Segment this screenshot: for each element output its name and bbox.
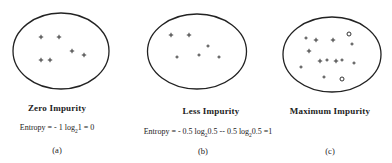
marker-dot bbox=[350, 42, 353, 45]
formula-b: Entropy = - 0.5 log20.5 -- 0.5 log20.5 =… bbox=[144, 127, 273, 138]
marker-dot bbox=[325, 58, 328, 61]
title-zero-impurity: Zero Impurity bbox=[28, 103, 86, 113]
marker-plus bbox=[39, 35, 43, 39]
marker-dot bbox=[299, 65, 302, 68]
marker-circle bbox=[340, 77, 344, 81]
panel-b bbox=[148, 14, 247, 89]
label-a: (a) bbox=[52, 145, 61, 155]
marker-plus bbox=[307, 49, 311, 53]
marker-circle bbox=[347, 32, 351, 36]
marker-plus bbox=[70, 49, 74, 53]
marker-plus bbox=[334, 59, 338, 63]
markers-a bbox=[39, 35, 86, 62]
marker-plus bbox=[39, 58, 43, 62]
impurity-diagram bbox=[0, 0, 392, 163]
panel-c bbox=[283, 17, 381, 92]
set-ellipse-c bbox=[283, 17, 381, 92]
label-c: (c) bbox=[325, 146, 334, 156]
marker-plus bbox=[48, 58, 52, 62]
marker-plus bbox=[314, 38, 318, 42]
marker-dot bbox=[197, 53, 200, 56]
marker-dot bbox=[175, 55, 178, 58]
set-ellipse-a bbox=[13, 13, 109, 89]
marker-plus bbox=[187, 33, 191, 37]
formula-a: Entropy = - 1 log21 = 0 bbox=[20, 123, 94, 134]
marker-dot bbox=[352, 61, 355, 64]
marker-dot bbox=[304, 36, 307, 39]
marker-dot bbox=[340, 58, 343, 61]
marker-plus bbox=[318, 59, 322, 63]
marker-plus bbox=[331, 38, 335, 42]
panel-a bbox=[13, 13, 109, 89]
title-less-impurity: Less Impurity bbox=[183, 106, 240, 116]
marker-dot bbox=[206, 44, 209, 47]
label-b: (b) bbox=[198, 146, 208, 156]
marker-plus bbox=[169, 33, 173, 37]
markers-c bbox=[299, 32, 355, 81]
marker-dot bbox=[217, 55, 220, 58]
marker-dot bbox=[322, 75, 325, 78]
set-ellipse-b bbox=[148, 14, 247, 89]
marker-plus bbox=[82, 53, 86, 57]
markers-b bbox=[169, 33, 221, 59]
marker-plus bbox=[57, 35, 61, 39]
title-maximum-impurity: Maximum Impurity bbox=[290, 106, 370, 116]
